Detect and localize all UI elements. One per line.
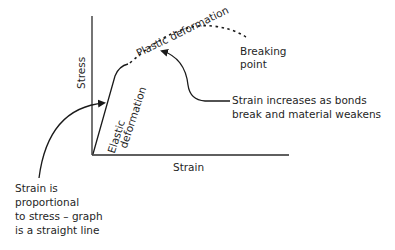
proportional-note-line2: proportional [15, 196, 79, 209]
x-axis-label: Strain [173, 161, 204, 174]
breaking-point-label-line1: Breaking [240, 45, 287, 58]
bonds-note-line2: break and material weakens [232, 108, 381, 121]
bonds-arrow [162, 51, 230, 101]
y-axis-label: Stress [75, 57, 87, 89]
proportional-arrow [39, 103, 104, 178]
bonds-note-line1: Strain increases as bonds [232, 94, 367, 107]
proportional-note-line1: Strain is [15, 182, 58, 195]
proportional-note-line3: to stress – graph [15, 210, 103, 223]
breaking-point-label-line2: point [240, 58, 267, 71]
proportional-note-line4: is a straight line [15, 224, 99, 237]
stress-strain-diagram: Stress Strain Elastic deformation Plasti… [0, 0, 395, 250]
